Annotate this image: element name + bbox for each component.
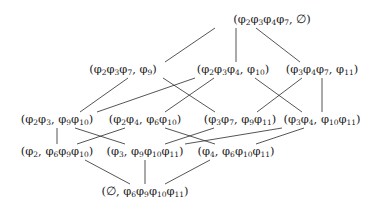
edge-n3c-n4 bbox=[165, 160, 210, 184]
edge-n2d-n3b bbox=[185, 128, 282, 144]
lattice-node-n2c: (φ3φ7, φ9φ11) bbox=[204, 114, 276, 127]
lattice-node-n1a: (φ2φ3φ7, φ9) bbox=[89, 64, 157, 77]
lattice-node-n4: (∅, φ6φ9φ10φ11) bbox=[101, 186, 188, 199]
lattice-node-n2b: (φ2φ4, φ6φ10) bbox=[109, 114, 181, 127]
edge-n3a-n4 bbox=[85, 160, 130, 184]
lattice-node-n1c: (φ3φ4φ7, φ11) bbox=[286, 64, 358, 77]
edge-layer bbox=[0, 0, 377, 214]
lattice-node-n2d: (φ3φ4, φ10φ11) bbox=[283, 114, 360, 127]
lattice-node-n1b: (φ2φ3φ4, φ10) bbox=[197, 64, 269, 77]
edge-n1b-n2a bbox=[97, 78, 195, 112]
edge-n0-n1c bbox=[256, 28, 300, 62]
lattice-node-n0: (φ2φ3φ4φ7, ∅) bbox=[233, 14, 311, 27]
hasse-diagram: (φ2φ3φ4φ7, ∅)(φ2φ3φ7, φ9)(φ2φ3φ4, φ10)(φ… bbox=[0, 0, 377, 214]
lattice-node-n3c: (φ4, φ6φ10φ11) bbox=[197, 146, 274, 159]
lattice-node-n2a: (φ2φ3, φ9φ10) bbox=[21, 114, 93, 127]
edge-n0-n1a bbox=[165, 28, 215, 62]
lattice-node-n3a: (φ2, φ6φ9φ10) bbox=[21, 146, 93, 159]
edge-n2d-n3c bbox=[256, 128, 304, 144]
lattice-node-n3b: (φ3, φ9φ10φ11) bbox=[106, 146, 183, 159]
edge-n1a-n2a bbox=[80, 78, 128, 112]
